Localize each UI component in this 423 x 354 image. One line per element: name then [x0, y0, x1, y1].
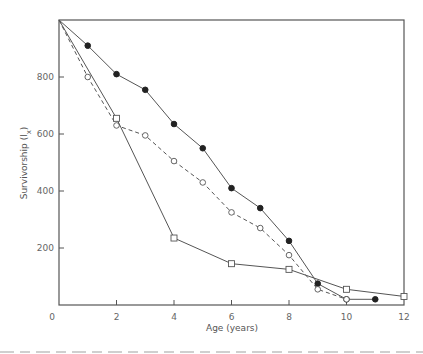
- data-point: [85, 74, 91, 80]
- data-series: [59, 20, 407, 302]
- series-open-squares: [59, 20, 407, 299]
- data-point: [171, 158, 177, 164]
- x-axis-label: Age (years): [206, 323, 258, 333]
- data-point: [200, 180, 206, 186]
- data-point: [372, 297, 378, 303]
- data-point: [200, 145, 206, 151]
- y-tick-label: 400: [37, 186, 54, 196]
- y-tick-label: 800: [37, 72, 54, 82]
- x-tick-label: 2: [114, 312, 120, 322]
- data-point: [142, 133, 148, 139]
- data-point: [315, 287, 321, 293]
- data-point: [315, 281, 321, 287]
- data-point: [229, 210, 235, 216]
- x-tick-label: 4: [171, 312, 177, 322]
- data-point: [85, 43, 91, 49]
- data-point: [229, 261, 235, 267]
- series-open-circles: [59, 20, 349, 302]
- x-tick-label: 10: [341, 312, 353, 322]
- data-point: [257, 225, 263, 231]
- data-point: [344, 297, 350, 303]
- survivorship-chart: 024681012200400600800 Age (years) Surviv…: [0, 0, 423, 354]
- data-point: [286, 252, 292, 258]
- x-tick-label: 8: [286, 312, 292, 322]
- series-filled-circles: [59, 20, 378, 302]
- data-point: [344, 286, 350, 292]
- data-point: [286, 266, 292, 272]
- y-tick-label: 200: [37, 243, 54, 253]
- x-tick-label: 0: [49, 312, 55, 322]
- y-tick-label: 600: [37, 129, 54, 139]
- x-tick-label: 6: [229, 312, 235, 322]
- data-point: [171, 121, 177, 127]
- data-point: [286, 238, 292, 244]
- x-tick-label: 12: [398, 312, 409, 322]
- data-point: [114, 115, 120, 121]
- figure-caption-cropped: [0, 348, 423, 354]
- axis-ticks: 024681012200400600800: [37, 72, 410, 322]
- y-axis-label: Survivorship (lx): [19, 127, 33, 200]
- data-point: [114, 71, 120, 77]
- data-point: [401, 293, 407, 299]
- data-point: [171, 235, 177, 241]
- data-point: [257, 205, 263, 211]
- data-point: [229, 185, 235, 191]
- data-point: [142, 87, 148, 93]
